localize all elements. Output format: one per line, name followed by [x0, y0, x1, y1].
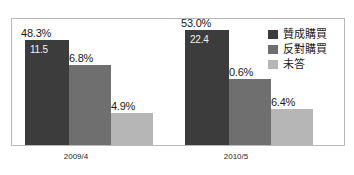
- bar-2009-4-noanswer: 14.9%: [109, 113, 153, 145]
- bar-value-label: 53.0%: [181, 17, 211, 29]
- bar-2010-5-approve: 53.0% 22.4: [185, 30, 229, 145]
- bar-group-2009-4: 48.3% 11.5 36.8% 14.9%: [25, 19, 151, 145]
- legend-swatch-icon: [268, 60, 278, 69]
- legend-swatch-icon: [268, 30, 278, 39]
- bar-2010-5-noanswer: 16.4%: [269, 109, 313, 145]
- bar-value-label: 48.3%: [21, 27, 51, 39]
- legend-item-noanswer: 未答: [268, 57, 352, 71]
- legend-item-approve: 贊成購買: [268, 27, 352, 41]
- bar-rect: [67, 65, 111, 145]
- legend-item-oppose: 反對購買: [268, 42, 352, 56]
- legend-label: 贊成購買: [283, 28, 327, 40]
- bar-rect: [269, 109, 313, 145]
- bar-chart: 48.3% 11.5 36.8% 14.9% 53.0% 22.4: [0, 0, 354, 175]
- x-axis-label-2010-5: 2010/5: [198, 152, 274, 161]
- legend-label: 反對購買: [283, 43, 327, 55]
- bar-rect: 22.4: [185, 30, 229, 145]
- x-axis-label-2009-4: 2009/4: [38, 152, 114, 161]
- bar-inner-value-label: 22.4: [190, 34, 209, 45]
- bar-inner-value-label: 11.5: [30, 44, 48, 55]
- legend-swatch-icon: [268, 45, 278, 54]
- bar-rect: [227, 79, 271, 145]
- bar-rect: [109, 113, 153, 145]
- bar-rect: 11.5: [25, 40, 69, 145]
- bar-2009-4-approve: 48.3% 11.5: [25, 40, 69, 145]
- bar-2010-5-oppose: 30.6%: [227, 79, 271, 145]
- legend-label: 未答: [283, 58, 305, 70]
- bar-2009-4-oppose: 36.8%: [67, 65, 111, 145]
- legend: 贊成購買 反對購買 未答: [268, 27, 352, 72]
